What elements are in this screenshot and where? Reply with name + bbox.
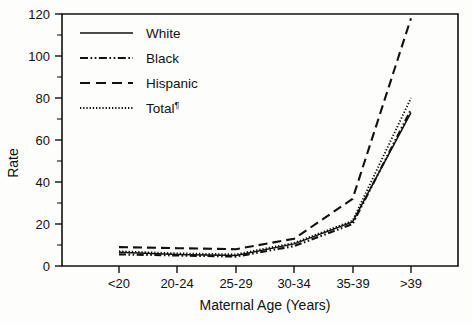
- y-tick-label-120: 120: [28, 7, 50, 22]
- y-axis-title: Rate: [5, 148, 21, 178]
- x-tick-label-under20: <20: [108, 276, 130, 291]
- x-tick-label-30-34: 30-34: [277, 276, 310, 291]
- y-tick-label-100: 100: [28, 49, 50, 64]
- series-line-black: [119, 110, 411, 257]
- plot-frame: [62, 14, 458, 266]
- legend-label-total: Total¶: [146, 100, 180, 116]
- y-tick-label-0: 0: [43, 259, 50, 274]
- x-tick-label-35-39: 35-39: [336, 276, 369, 291]
- y-tick-label-80: 80: [36, 91, 50, 106]
- legend-label-total-footnote-marker: ¶: [175, 100, 180, 110]
- legend-label-black: Black: [146, 51, 179, 66]
- series-line-total: [119, 98, 411, 254]
- legend-label-white: White: [146, 26, 181, 41]
- x-tick-label-20-24: 20-24: [160, 276, 193, 291]
- line-chart-svg: 120 100 80 60 40 20 0 Rate <20 20-24 25-…: [0, 0, 472, 323]
- y-axis-ticks: [55, 14, 62, 266]
- legend-label-hispanic: Hispanic: [146, 76, 198, 91]
- x-axis-ticks: [119, 266, 411, 273]
- legend-label-total-text: Total: [146, 101, 175, 116]
- chart-figure: 120 100 80 60 40 20 0 Rate <20 20-24 25-…: [0, 0, 472, 323]
- chart-legend: White Black Hispanic Total¶: [80, 26, 198, 116]
- x-tick-label-over39: >39: [400, 276, 422, 291]
- y-tick-label-60: 60: [36, 133, 50, 148]
- series-line-white: [119, 113, 411, 256]
- y-tick-label-20: 20: [36, 217, 50, 232]
- y-tick-label-40: 40: [36, 175, 50, 190]
- x-tick-label-25-29: 25-29: [219, 276, 252, 291]
- x-axis-title: Maternal Age (Years): [200, 297, 331, 313]
